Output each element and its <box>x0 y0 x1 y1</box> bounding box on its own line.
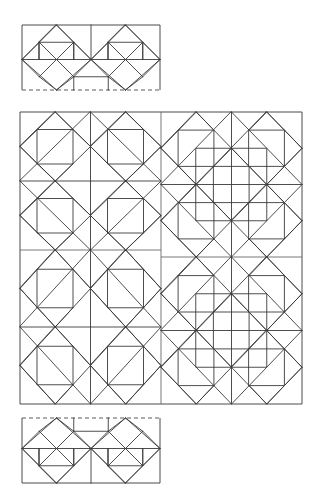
bottom-strip-geometry <box>22 418 160 483</box>
diagram-root <box>0 0 316 489</box>
panel-bottom-border-strip <box>0 0 316 489</box>
